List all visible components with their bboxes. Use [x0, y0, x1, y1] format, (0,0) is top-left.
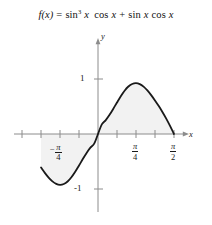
x-tick-label-neg-pi-over-4: −π4 [50, 142, 62, 162]
x-axis-label: x [189, 129, 193, 139]
y-axis-label: y [101, 31, 105, 41]
neg-pi-4-denominator: 4 [55, 153, 61, 162]
plot-canvas [0, 0, 212, 225]
y-tick-label-negative-one: -1 [74, 183, 82, 193]
neg-pi-4-minus-sign: − [50, 144, 55, 154]
pi-4-denominator: 4 [132, 152, 138, 161]
x-tick-label-pi-over-2: π2 [170, 142, 176, 164]
x-tick-label-pi-over-4: π4 [132, 142, 138, 164]
y-tick-label-positive-one: 1 [80, 73, 85, 83]
neg-pi-4-numerator: π [55, 143, 61, 153]
pi-2-denominator: 2 [170, 152, 176, 161]
function-graph-figure: f(x)=sin3xcosx+sinxcosx x [0, 0, 212, 225]
pi-4-numerator: π [132, 142, 138, 152]
pi-2-numerator: π [170, 142, 176, 152]
y-axis-arrowhead [96, 38, 101, 44]
